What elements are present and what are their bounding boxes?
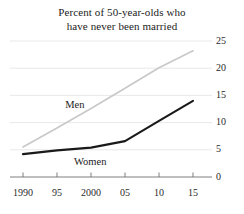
chart-figure: Percent of 50-year-olds who have never b… [0,0,244,214]
y-tick-label-25: 25 [216,35,240,46]
gridlines [10,41,212,177]
y-tick-label-15: 15 [216,89,240,100]
y-tick-label-5: 5 [216,143,240,154]
series-lines [23,51,193,154]
y-tick-label-20: 20 [216,62,240,73]
x-tick-label-15: 15 [173,187,213,198]
series-label-women: Women [74,156,106,167]
series-label-men: Men [65,99,84,110]
x-axis-ticks [23,173,193,178]
y-tick-label-0: 0 [216,171,240,182]
y-tick-label-10: 10 [216,116,240,127]
chart-plot-area [0,0,244,214]
series-line-women [23,101,193,154]
series-line-men [23,51,193,147]
